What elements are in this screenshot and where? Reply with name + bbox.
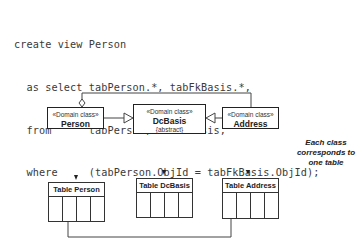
class-stereotype: «Domain class» xyxy=(48,111,103,119)
table-dcbasis: Table DcBasis xyxy=(136,178,193,218)
inheritance-arrow-icon xyxy=(124,113,133,123)
class-person: «Domain class» Person xyxy=(47,107,104,129)
inheritance-arrow-icon xyxy=(206,113,215,123)
note-text: Each class corresponds to one table xyxy=(292,138,360,168)
table-address: Table Address xyxy=(222,178,279,219)
table-person: Table Person xyxy=(48,182,105,222)
class-address: «Domain class» Address xyxy=(222,107,279,129)
aggregation-diamond-icon xyxy=(79,99,85,107)
table-columns xyxy=(49,197,104,221)
class-abstract-label: {abstract} xyxy=(134,126,205,134)
table-title: Table DcBasis xyxy=(137,179,192,193)
class-stereotype: «Domain class» xyxy=(223,111,278,119)
table-title: Table Address xyxy=(223,179,278,193)
table-title: Table Person xyxy=(49,183,104,197)
class-name: DcBasis xyxy=(134,116,205,126)
down-arrow-icon xyxy=(74,175,78,180)
class-stereotype: «Domain class» xyxy=(134,108,205,116)
down-arrow-icon xyxy=(246,170,250,175)
table-columns xyxy=(137,193,192,217)
table-columns xyxy=(223,193,278,218)
down-arrow-icon xyxy=(162,170,166,175)
class-name: Person xyxy=(48,119,103,129)
class-dcbasis: «Domain class» DcBasis {abstract} xyxy=(133,104,206,134)
class-name: Address xyxy=(223,119,278,129)
